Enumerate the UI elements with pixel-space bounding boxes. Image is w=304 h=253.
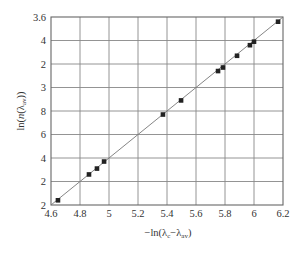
data-point (179, 98, 184, 103)
x-tick-label: 5 (106, 208, 111, 219)
x-tick-label: 4.8 (73, 208, 86, 219)
data-point (161, 112, 166, 117)
data-point (102, 159, 107, 164)
x-tick-label: 5.4 (160, 208, 174, 219)
x-axis-tick-labels: 4.64.855.25.45.65.866.2 (44, 208, 289, 219)
y-tick-label: 3.6 (33, 12, 46, 23)
data-point (235, 53, 240, 58)
y-tick-label: 8 (41, 106, 46, 117)
y-tick-label: 3 (41, 82, 46, 93)
data-point (216, 69, 221, 74)
y-tick-label: 6 (41, 129, 46, 140)
y-tick-label: 2 (41, 59, 46, 70)
y-tick-label: 4 (41, 153, 47, 164)
data-point (252, 39, 257, 44)
data-point (56, 198, 61, 203)
x-tick-label: 6.2 (276, 208, 289, 219)
y-tick-label: 4 (41, 35, 47, 46)
data-point (248, 43, 253, 48)
y-axis-title: ln(n(λav)) (15, 91, 28, 131)
y-tick-label: 2 (41, 176, 46, 187)
data-point (221, 65, 226, 70)
data-point (276, 19, 281, 24)
chart: 4.64.855.25.45.65.866.2 3.642386422 −ln(… (0, 0, 304, 253)
x-axis-title: −ln(λc−λav) (145, 227, 192, 240)
y-tick-label: 2 (41, 200, 46, 211)
x-tick-label: 5.6 (189, 208, 202, 219)
x-tick-label: 4.6 (44, 208, 57, 219)
y-axis-tick-labels: 3.642386422 (33, 12, 47, 211)
data-point (95, 166, 100, 171)
x-tick-label: 5.2 (131, 208, 144, 219)
data-point (87, 172, 92, 177)
x-tick-label: 5.8 (218, 208, 231, 219)
x-tick-label: 6 (251, 208, 256, 219)
